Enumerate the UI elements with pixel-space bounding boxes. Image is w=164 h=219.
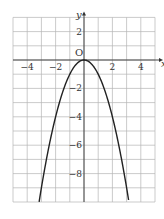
origin-label: O: [75, 47, 83, 58]
y-tick-label: −6: [69, 140, 83, 150]
y-axis-label: y: [75, 9, 82, 20]
x-tick-label: 4: [138, 62, 144, 72]
parabola-chart: −4−2242−2−4−6−8 x y O: [0, 0, 164, 219]
x-tick-label: 2: [110, 62, 116, 72]
y-tick-label: −8: [69, 169, 83, 179]
y-tick-label: 2: [76, 27, 82, 37]
x-axis-label: x: [161, 58, 164, 69]
x-tick-label: −2: [49, 62, 62, 72]
y-axis-arrow-icon: [82, 11, 86, 15]
x-tick-label: −4: [21, 62, 35, 72]
y-tick-label: −4: [69, 112, 83, 122]
y-tick-label: −2: [69, 83, 82, 93]
